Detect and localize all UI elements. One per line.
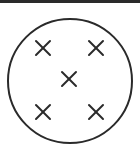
- circle-with-x-marks-diagram: [0, 0, 140, 151]
- x-mark-bottom-right-icon: [89, 105, 103, 119]
- x-mark-top-left-icon: [36, 41, 50, 55]
- x-mark-center-icon: [62, 72, 76, 86]
- x-mark-bottom-left-icon: [36, 105, 50, 119]
- x-mark-top-right-icon: [89, 41, 103, 55]
